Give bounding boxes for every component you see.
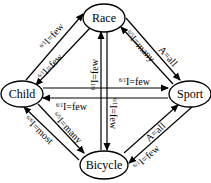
node-child[interactable]: Child [1,81,43,107]
node-sport-label: Sport [177,87,204,101]
label-sport-to-child: 6/1I=few [56,101,88,112]
node-race-label: Race [92,11,116,25]
graph-canvas: Race Child Sport Bicycle 6/1I=few 6/1I=f… [0,0,211,183]
edge-race-to-sport [126,18,180,80]
label-child-to-sport: 6/1I=few [119,76,151,87]
label-bicycle-to-race: 6/1I=few [89,58,100,90]
node-child-label: Child [9,87,36,101]
label-child-to-race: 6/1I=few [37,20,66,51]
node-race[interactable]: Race [83,4,125,32]
node-bicycle[interactable]: Bicycle [80,151,128,179]
label-race-to-child: 6/1I=few [35,51,65,82]
label-race-to-bicycle: 6/1I=few [108,98,119,130]
node-bicycle-label: Bicycle [86,158,123,172]
edge-sport-to-bicycle [129,107,192,163]
label-child-to-bicycle: 6/5I=many [51,110,85,145]
label-sport-to-race: 6/5I=many [124,28,158,64]
node-sport[interactable]: Sport [169,81,211,107]
